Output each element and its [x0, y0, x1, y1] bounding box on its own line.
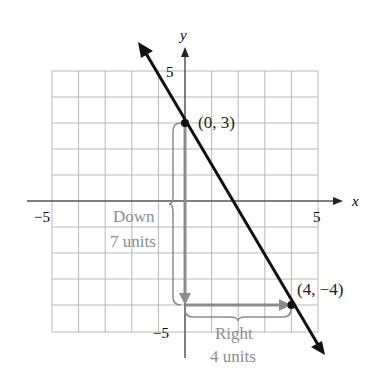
y-axis-arrow-icon: [181, 47, 189, 57]
graph: x y −5 5 5 −5 Down 7 units Right 4 units…: [0, 0, 385, 388]
right-label-2: 4 units: [210, 347, 256, 366]
x-axis-arrow-icon: [333, 197, 343, 205]
point-4-neg4: [287, 301, 295, 309]
point-0-3: [181, 119, 189, 127]
down-brace: [169, 123, 181, 305]
down-label-1: Down: [113, 207, 155, 226]
y-max-tick: 5: [166, 64, 174, 80]
point1-label: (0, 3): [198, 113, 235, 132]
x-min-tick: −5: [34, 209, 50, 225]
down-arrowhead-icon: [179, 293, 191, 305]
line-arrow-top-icon: [138, 42, 153, 58]
y-axis-label: y: [178, 27, 187, 43]
x-max-tick: 5: [313, 209, 321, 225]
x-axis-label: x: [351, 193, 359, 209]
right-label-1: Right: [215, 324, 253, 343]
y-min-tick: −5: [153, 325, 169, 341]
axes: [27, 55, 335, 358]
point2-label: (4, −4): [297, 280, 343, 299]
down-label-2: 7 units: [110, 232, 156, 251]
